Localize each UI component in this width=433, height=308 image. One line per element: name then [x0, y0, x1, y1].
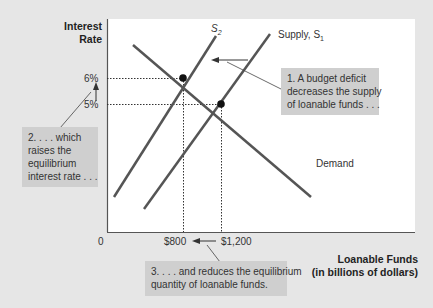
demand-label: Demand	[316, 158, 354, 170]
s1-label-text: Supply, S	[278, 29, 320, 40]
note1-line3: of loanable funds . . .	[287, 98, 373, 111]
y-axis-title: Interest Rate	[44, 20, 102, 46]
origin-label: 0	[98, 236, 104, 248]
x-tick-800: $800	[164, 236, 186, 248]
note3-line1: 3. . . . and reduces the equilibrium	[151, 265, 281, 278]
y-tick-5: 5%	[84, 99, 98, 111]
note1-line1: 1. A budget deficit	[287, 72, 373, 85]
x-tick-1200: $1,200	[221, 236, 252, 248]
initial-equilibrium-point	[217, 100, 225, 108]
new-equilibrium-point	[179, 74, 187, 82]
note3-leader	[207, 245, 220, 262]
note2-line2: raises the	[28, 144, 92, 157]
note1-line2: decreases the supply	[287, 85, 373, 98]
s2-label-text: S	[211, 23, 218, 34]
note-budget-deficit: 1. A budget deficit decreases the supply…	[281, 68, 379, 115]
s2-label: S2	[211, 23, 222, 39]
quantity-left-arrow-icon	[192, 238, 216, 244]
note3-line2: quantity of loanable funds.	[151, 278, 281, 291]
y-tick-6: 6%	[84, 73, 98, 85]
note2-line3: equilibrium	[28, 157, 92, 170]
note2-line1: 2. . . . which	[28, 131, 92, 144]
note2-line4: interest rate . . .	[28, 170, 92, 183]
y-axis-title-line1: Interest	[44, 20, 102, 33]
y-axis-title-line2: Rate	[44, 33, 102, 46]
note-reduces-quantity: 3. . . . and reduces the equilibrium qua…	[145, 261, 287, 296]
note-raises-rate: 2. . . . which raises the equilibrium in…	[22, 127, 98, 187]
s1-label-sub: 1	[320, 35, 324, 42]
plot-area	[107, 19, 415, 232]
s1-label: Supply, S1	[278, 29, 324, 45]
s2-label-sub: 2	[218, 29, 222, 36]
